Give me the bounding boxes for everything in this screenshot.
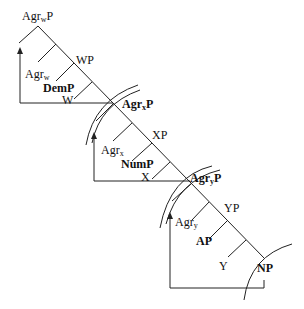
agrw-spec-branch xyxy=(19,26,38,43)
agrx-head-branch xyxy=(113,123,132,141)
wp-label: WP xyxy=(76,53,94,67)
nump-label: NumP xyxy=(121,157,154,171)
x-head-label: X xyxy=(141,170,150,184)
agry-head-branch xyxy=(192,202,209,220)
syntax-tree-diagram: AgrwP WP Agrw DemP W AgrxP XP Agrx NumP … xyxy=(0,0,304,309)
np-label: NP xyxy=(257,261,273,275)
y-branch xyxy=(228,240,246,257)
y-head-label: Y xyxy=(219,259,228,273)
demp-branch xyxy=(56,63,74,81)
agrw-phrase-label: AgrwP xyxy=(22,9,53,24)
spine-branch xyxy=(38,26,264,258)
agrx-phrase-label: AgrxP xyxy=(122,97,153,112)
x-branch xyxy=(152,162,170,179)
agry-phrase-label: AgryP xyxy=(190,171,221,186)
yp-label: YP xyxy=(224,201,240,215)
ap-label: AP xyxy=(196,234,212,248)
agrw-head-branch xyxy=(38,44,56,62)
w-branch xyxy=(74,82,92,99)
agrx-head-label: Agrx xyxy=(101,143,124,158)
xp-label: XP xyxy=(152,128,168,142)
w-head-label: W xyxy=(62,93,74,107)
agrw-head-label: Agrw xyxy=(25,67,50,82)
